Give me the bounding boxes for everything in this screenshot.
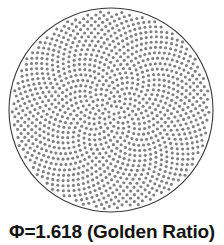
figure-caption: Φ=1.618 (Golden Ratio)	[0, 219, 224, 245]
spiral-svg-canvas	[0, 0, 224, 218]
phyllotaxis-spiral-plot	[0, 0, 224, 218]
golden-ratio-figure: Φ=1.618 (Golden Ratio)	[0, 0, 224, 245]
